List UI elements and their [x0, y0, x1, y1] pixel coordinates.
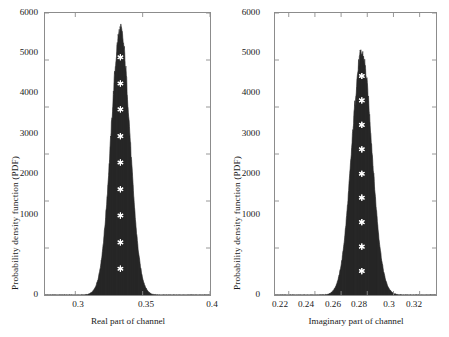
y-tick-6000-right: 6000 [226, 7, 260, 17]
plot-area-real-part [44, 12, 211, 296]
y-tick-1000-right: 1000 [226, 209, 260, 219]
chart-panel-real-part: Probability density function (PDF) 6000 … [0, 0, 225, 337]
y-tick-2000-left: 2000 [4, 168, 38, 178]
x-tick-3-right: 0.28 [343, 299, 375, 309]
y-tick-5000-right: 5000 [226, 47, 260, 57]
x-tick-5-right: 0.32 [398, 299, 430, 309]
chart-panel-imaginary-part: Probability density function (PDF) 6000 … [224, 0, 449, 337]
x-axis-label-left: Real part of channel [42, 316, 214, 326]
pdf-curve-imaginary-part [275, 13, 436, 295]
y-tick-6000-left: 6000 [4, 7, 38, 17]
plot-area-imaginary-part [274, 12, 437, 296]
y-tick-5000-left: 5000 [4, 47, 38, 57]
x-tick-0-left: 0.3 [58, 299, 98, 309]
y-tick-4000-right: 4000 [226, 87, 260, 97]
y-tick-2000-right: 2000 [226, 168, 260, 178]
x-axis-label-right: Imaginary part of channel [270, 316, 442, 326]
figure-container: Probability density function (PDF) 6000 … [0, 0, 449, 337]
x-tick-1-left: 0.35 [126, 299, 166, 309]
y-tick-3000-right: 3000 [226, 128, 260, 138]
y-tick-1000-left: 1000 [4, 209, 38, 219]
pdf-curve-real-part [45, 13, 210, 295]
y-tick-0-left: 0 [4, 289, 38, 299]
y-tick-4000-left: 4000 [4, 87, 38, 97]
y-tick-0-right: 0 [226, 289, 260, 299]
y-tick-3000-left: 3000 [4, 128, 38, 138]
